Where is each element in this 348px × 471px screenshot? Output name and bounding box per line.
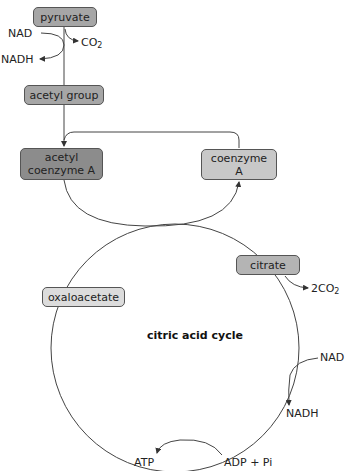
co2-top-label: CO2	[81, 36, 102, 50]
acetyl-coa-label-line2: coenzyme A	[28, 164, 95, 177]
atp-label: ATP	[134, 456, 154, 469]
coenzyme-a-label-line2: A	[235, 165, 243, 178]
co2-text: CO	[81, 36, 97, 49]
nadh-right-label: NADH	[286, 407, 319, 420]
acetyl-group-label: acetyl group	[30, 89, 99, 102]
oxaloacetate-node: oxaloacetate	[42, 287, 125, 307]
nad-top-label: NAD	[8, 27, 32, 40]
coenzyme-a-node: coenzyme A	[201, 149, 277, 180]
pyruvate-node: pyruvate	[33, 7, 97, 27]
acetyl-group-node: acetyl group	[24, 85, 104, 105]
co2-release-arrow	[65, 29, 78, 41]
coenzyme-a-label-line1: coenzyme	[211, 152, 267, 165]
oxaloacetate-label: oxaloacetate	[48, 291, 119, 304]
adp-pi-label: ADP + Pi	[224, 456, 272, 469]
two-co2-text: 2CO	[311, 282, 334, 295]
diagram-arrows	[0, 0, 348, 471]
coenzyme-a-return-line	[64, 132, 239, 148]
acetyl-coa-label-line1: acetyl	[45, 151, 78, 164]
two-co2-subscript: 2	[334, 287, 339, 296]
nad-to-nadh-arrow	[40, 33, 64, 59]
nad-to-nadh-right-arrow	[289, 358, 318, 405]
acetyl-coa-node: acetyl coenzyme A	[20, 148, 103, 180]
two-co2-release-arrow	[285, 276, 308, 288]
citrate-label: citrate	[250, 259, 286, 272]
two-co2-label: 2CO2	[311, 282, 339, 296]
citrate-node: citrate	[236, 255, 300, 275]
cycle-title: citric acid cycle	[147, 329, 243, 342]
co2-subscript: 2	[97, 41, 102, 50]
acetyl-coa-to-coenzyme-a-arrow	[64, 180, 239, 226]
pyruvate-label: pyruvate	[40, 11, 89, 24]
adp-to-atp-arrow	[157, 440, 222, 455]
nad-right-label: NAD	[320, 351, 344, 364]
nadh-top-label: NADH	[1, 53, 34, 66]
